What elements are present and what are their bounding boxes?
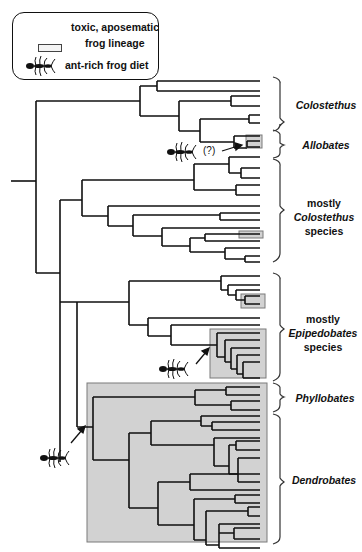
legend-toxic-line2: frog lineage — [85, 37, 145, 49]
arrow-dendrobates — [71, 430, 82, 443]
clade-label-mostly-epipedobates: mostlyEpipedobatesspecies — [284, 312, 362, 354]
brace-colostethus — [273, 77, 284, 131]
clade-label-phyllobates: Phyllobates — [288, 391, 362, 405]
toxic-lineage-highlights — [87, 135, 267, 542]
clade-label-colostethus: Colostethus — [290, 98, 362, 112]
ant-icon-epipedobates — [159, 359, 188, 379]
brace-allobates — [273, 130, 284, 158]
highlight-epipedobates-large — [210, 329, 266, 378]
brace-mostly-colostethus — [273, 159, 284, 262]
ant-icon-legend — [23, 55, 63, 77]
clade-label-allobates: Allobates — [290, 138, 362, 152]
legend: toxic, aposematic frog lineage ant-rich … — [12, 12, 159, 80]
brace-phyllobates — [273, 383, 284, 412]
brace-dendrobates — [273, 414, 284, 544]
clade-label-dendrobates: Dendrobates — [286, 473, 362, 487]
ant-icon-dendrobates — [40, 448, 69, 468]
toxic-lineage-swatch — [38, 44, 62, 52]
ant-icon-allobates — [167, 142, 196, 162]
legend-ant-label: ant-rich frog diet — [65, 59, 148, 71]
clade-label-mostly-colostethus: mostlyColostethusspecies — [286, 196, 362, 238]
highlight-phyllobates-dendrobates — [87, 383, 267, 542]
uncertain-marker: (?) — [203, 145, 215, 156]
legend-toxic-line1: toxic, aposematic — [71, 21, 159, 33]
brace-mostly-epipedobates — [273, 273, 284, 381]
phylogenetic-tree — [0, 0, 362, 552]
clade-braces — [273, 77, 284, 544]
